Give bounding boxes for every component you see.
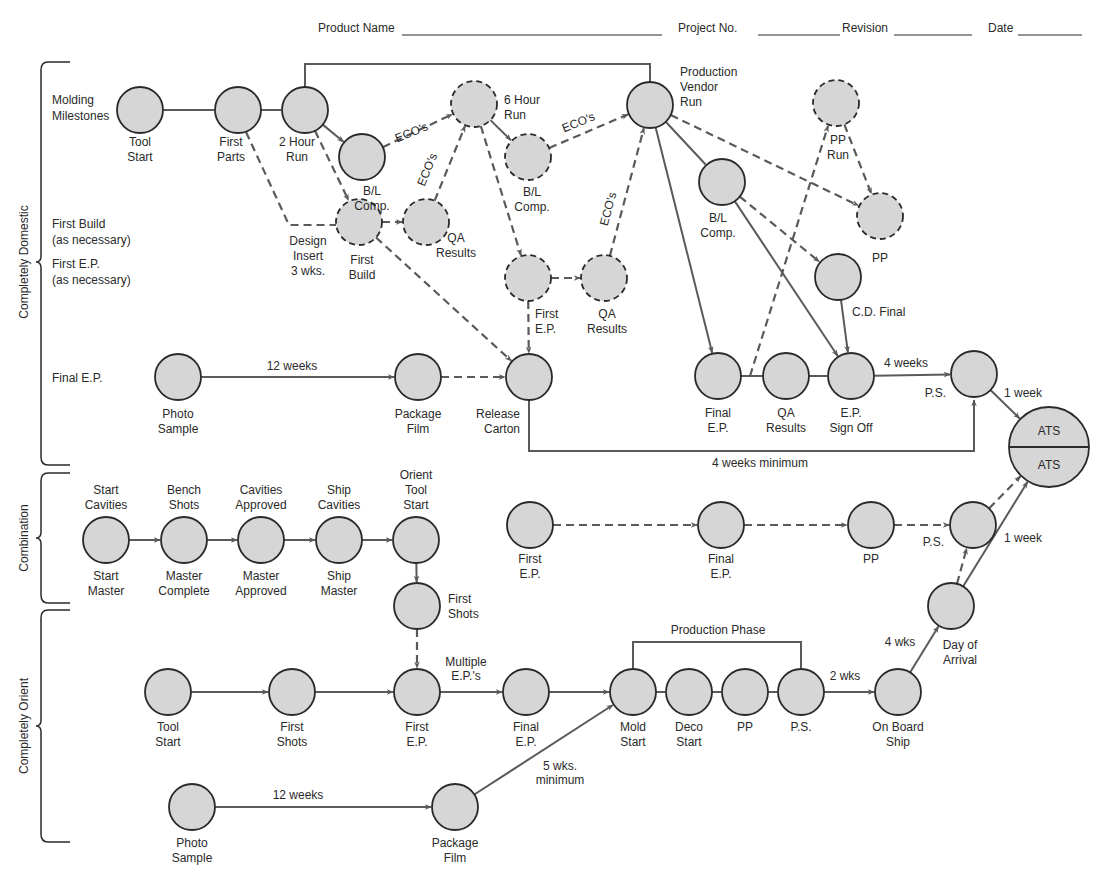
row-label-final-e-p: Final E.P.: [52, 371, 102, 385]
group-brackets: Completely DomesticCombinationCompletely…: [17, 62, 70, 842]
node-d-6hr-run[interactable]: [451, 81, 497, 127]
node-d-qa-results-1[interactable]: [403, 199, 449, 245]
node-d-tool-start[interactable]: [117, 87, 163, 133]
node-label-d-qa-results-2: QAResults: [587, 307, 627, 336]
node-o-package-film[interactable]: [432, 784, 478, 830]
node-label-o-day-of-arrival: Day ofArrival: [943, 638, 978, 667]
edge-label-12-weeks: 12 weeks: [267, 359, 318, 373]
node-d-ep-sign-off[interactable]: [828, 353, 874, 399]
node-label-c-first-shots: FirstShots: [448, 592, 479, 621]
node-d-qa-results-3[interactable]: [763, 353, 809, 399]
edge-d_6hr_run-to-d_bl_comp_2: [490, 120, 510, 140]
edge-label-eco-s: ECO's: [414, 151, 440, 188]
node-top-label-c-start: StartCavities: [85, 483, 128, 512]
header-form-fields: Product NameProject No.RevisionDate: [318, 21, 1082, 35]
node-label-o-deco-start: DecoStart: [675, 720, 703, 749]
edge-d_qa_results_1-to-d_6hr_run: [435, 126, 465, 200]
node-c-ship[interactable]: [316, 517, 362, 563]
node-c-approved[interactable]: [238, 517, 284, 563]
node-c-first-ep[interactable]: [507, 502, 553, 548]
node-d-photo-sample[interactable]: [155, 354, 201, 400]
node-label-d-ps: P.S.: [925, 386, 946, 400]
edge-label-1-week: 1 week: [1004, 386, 1043, 400]
node-d-bl-comp-1[interactable]: [339, 134, 385, 180]
edge-label-4-weeks: 4 weeks: [884, 356, 928, 370]
node-d-bl-comp-3[interactable]: [699, 159, 745, 205]
edge-label-production-phase: Production Phase: [671, 623, 766, 637]
node-d-package-film[interactable]: [395, 354, 441, 400]
node-c-pp[interactable]: [848, 502, 894, 548]
node-o-final-ep[interactable]: [503, 669, 549, 715]
ats-bottom-label: ATS: [1038, 458, 1060, 472]
edge-label-3-wks: 3 wks.: [291, 264, 325, 278]
node-c-first-shots[interactable]: [394, 583, 440, 629]
node-d-first-parts[interactable]: [215, 87, 261, 133]
node-label-d-release-carton: ReleaseCarton: [476, 407, 520, 436]
node-label-d-2hr-run: 2 HourRun: [279, 135, 315, 164]
node-label-d-pp-run: PPRun: [827, 133, 849, 162]
node-d-qa-results-2[interactable]: [581, 255, 627, 301]
node-o-on-board-ship[interactable]: [875, 669, 921, 715]
node-o-first-ep[interactable]: [394, 669, 440, 715]
edge-d_bl_comp_3-to-d_cd_final: [740, 197, 820, 262]
node-labels: ToolStartFirstParts2 HourRunB/LComp.6 Ho…: [85, 65, 978, 865]
brace-combination: [36, 473, 70, 603]
node-label-o-first-shots: FirstShots: [277, 720, 308, 749]
node-o-photo-sample[interactable]: [169, 784, 215, 830]
node-c-ps[interactable]: [950, 502, 996, 548]
edge-label-2-wks: 2 wks: [830, 669, 861, 683]
node-label-o-photo-sample: PhotoSample: [172, 836, 213, 865]
node-c-start[interactable]: [83, 517, 129, 563]
edge-label-minimum: minimum: [536, 773, 585, 787]
node-o-mold-start[interactable]: [610, 669, 656, 715]
node-o-first-shots[interactable]: [269, 669, 315, 715]
node-d-first-ep[interactable]: [505, 255, 551, 301]
node-label-c-pp: PP: [863, 552, 879, 566]
header-label-date: Date: [988, 21, 1014, 35]
edge-label-12-weeks: 12 weeks: [273, 788, 324, 802]
node-o-day-of-arrival[interactable]: [928, 583, 974, 629]
node-label-c-first-ep: FirstE.P.: [518, 552, 542, 581]
node-d-pp[interactable]: [857, 193, 903, 239]
node-c-orient-tool[interactable]: [393, 517, 439, 563]
release-carton-to-ps: [529, 400, 974, 451]
node-label-d-bl-comp-3: B/LComp.: [700, 211, 735, 240]
node-c-final-ep[interactable]: [698, 502, 744, 548]
row-label-first-e-p-as-necessary: First E.P.(as necessary): [52, 257, 131, 287]
edge-d_cd_final-to-d_ep_sign_off: [841, 300, 848, 352]
node-d-2hr-run[interactable]: [282, 87, 328, 133]
edge-label-4-wks: 4 wks: [885, 635, 916, 649]
edge-d_2hr_run-to-d_bl_comp_1: [323, 125, 344, 142]
node-c-bench[interactable]: [161, 517, 207, 563]
node-label-c-bench: MasterComplete: [158, 569, 210, 598]
production-phase-bracket: [633, 642, 801, 669]
ats-top-label: ATS: [1038, 424, 1060, 438]
node-o-pp[interactable]: [722, 669, 768, 715]
node-label-d-photo-sample: PhotoSample: [158, 407, 199, 436]
header-label-project-no: Project No.: [678, 21, 737, 35]
node-d-prod-vendor-run[interactable]: [627, 82, 673, 128]
node-o-tool-start[interactable]: [145, 669, 191, 715]
group-label-completely-domestic: Completely Domestic: [17, 205, 31, 318]
node-d-pp-run[interactable]: [813, 80, 859, 126]
node-d-bl-comp-2[interactable]: [505, 134, 551, 180]
node-o-deco-start[interactable]: [666, 669, 712, 715]
node-d-release-carton[interactable]: [506, 354, 552, 400]
node-label-d-bl-comp-2: B/LComp.: [514, 185, 549, 214]
edge-label-eco-s: ECO's: [597, 191, 619, 228]
node-label-d-tool-start: ToolStart: [127, 135, 153, 164]
edge-label-1-week: 1 week: [1004, 531, 1043, 545]
edge-o_day_of_arrival-to-c_ps: [957, 548, 967, 584]
edge-d_first_ep-to-d_release_carton: [528, 301, 529, 353]
node-label-d-cd-final: C.D. Final: [852, 305, 905, 319]
node-d-ps[interactable]: [951, 351, 997, 397]
node-d-final-ep[interactable]: [695, 353, 741, 399]
node-d-cd-final[interactable]: [815, 254, 861, 300]
node-o-ps[interactable]: [778, 669, 824, 715]
node-label-d-qa-results-3: QAResults: [766, 406, 806, 435]
node-label-o-mold-start: MoldStart: [620, 720, 646, 749]
node-label-d-first-parts: FirstParts: [217, 135, 245, 164]
edge-label-e-p-s: E.P.'s: [451, 669, 480, 683]
row-labels: MoldingMilestonesFirst Build(as necessar…: [52, 93, 131, 385]
node-label-c-final-ep: FinalE.P.: [708, 552, 734, 581]
